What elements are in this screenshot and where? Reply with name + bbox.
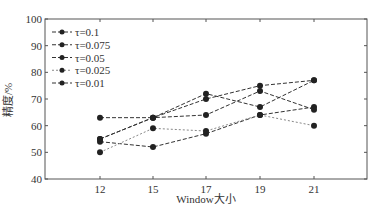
y-tick-label: 40 xyxy=(31,173,43,185)
data-point xyxy=(203,91,209,97)
legend-label: τ=0.01 xyxy=(75,77,105,89)
data-point xyxy=(97,115,103,121)
x-tick-label: 21 xyxy=(309,183,320,195)
y-tick-label: 80 xyxy=(31,66,43,78)
x-tick-label: 12 xyxy=(95,183,106,195)
legend-item: τ=0.05 xyxy=(52,52,105,64)
data-point xyxy=(150,115,156,121)
legend-marker-icon xyxy=(60,68,65,73)
x-tick-label: 15 xyxy=(148,183,160,195)
y-tick-label: 50 xyxy=(31,146,43,158)
series-3 xyxy=(97,112,317,155)
data-point xyxy=(311,77,317,83)
y-tick-label: 90 xyxy=(31,40,43,52)
data-point xyxy=(203,96,209,102)
data-point xyxy=(97,136,103,142)
y-axis-label: 精度/% xyxy=(1,83,14,117)
legend-marker-icon xyxy=(60,42,65,47)
legend-marker-icon xyxy=(60,55,65,60)
legend-label: τ=0.075 xyxy=(75,39,111,51)
legend-item: τ=0.01 xyxy=(52,77,105,89)
data-point xyxy=(97,149,103,155)
data-point xyxy=(203,128,209,134)
legend-marker-icon xyxy=(60,81,65,86)
legend-label: τ=0.1 xyxy=(75,26,99,38)
data-point xyxy=(311,123,317,129)
legend-item: τ=0.025 xyxy=(52,64,111,76)
data-point xyxy=(257,112,263,118)
legend-marker-icon xyxy=(60,30,65,35)
data-point xyxy=(203,112,209,118)
legend: τ=0.1τ=0.075τ=0.05τ=0.025τ=0.01 xyxy=(52,26,111,89)
legend-label: τ=0.025 xyxy=(75,64,111,76)
legend-item: τ=0.075 xyxy=(52,39,111,51)
legend-label: τ=0.05 xyxy=(75,52,105,64)
data-point xyxy=(257,83,263,89)
data-point xyxy=(150,144,156,150)
data-point xyxy=(257,104,263,110)
y-tick-label: 100 xyxy=(26,13,43,25)
y-tick-label: 70 xyxy=(31,93,43,105)
data-point xyxy=(257,88,263,94)
data-point xyxy=(150,125,156,131)
x-axis-label: Window大小 xyxy=(176,192,235,205)
line-chart: 4050607080901001215171921 τ=0.1τ=0.075τ=… xyxy=(0,0,385,209)
legend-item: τ=0.1 xyxy=(52,26,99,38)
x-tick-label: 19 xyxy=(255,183,267,195)
y-tick-label: 60 xyxy=(31,120,43,132)
data-point xyxy=(311,107,317,113)
series-lines xyxy=(97,77,317,155)
